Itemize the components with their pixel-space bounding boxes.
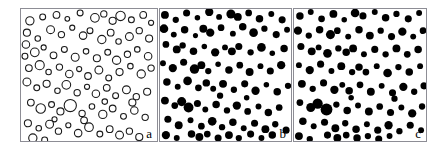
data-point <box>53 12 60 19</box>
data-point <box>231 87 237 93</box>
data-point <box>321 104 333 116</box>
data-point <box>323 49 332 58</box>
data-point <box>359 12 366 19</box>
data-point <box>56 64 62 70</box>
scatter-panel-figure: a b c <box>0 0 445 152</box>
data-point <box>210 86 216 92</box>
panel-b: b <box>159 8 292 142</box>
data-point <box>205 68 211 74</box>
data-point <box>280 45 287 52</box>
data-point <box>345 34 351 40</box>
data-point <box>330 86 338 94</box>
data-point <box>307 136 313 141</box>
data-point <box>247 49 253 55</box>
data-point <box>284 27 290 33</box>
data-point <box>55 128 61 134</box>
data-point <box>269 131 276 138</box>
data-point <box>233 101 241 109</box>
panel-a-scatter <box>21 9 157 141</box>
data-point <box>206 29 214 37</box>
data-point <box>99 110 107 118</box>
data-point <box>102 99 108 105</box>
data-point <box>420 27 426 34</box>
data-point <box>355 26 362 33</box>
data-point <box>208 117 217 126</box>
data-point <box>364 121 370 127</box>
data-point <box>30 48 39 57</box>
data-point <box>217 93 223 99</box>
data-point <box>245 10 252 17</box>
data-point <box>342 49 349 56</box>
data-point <box>77 10 83 16</box>
data-point <box>372 9 378 15</box>
data-point <box>26 65 33 72</box>
panel-b-label: b <box>280 126 287 141</box>
data-point <box>180 59 187 66</box>
panel-c-label: c <box>415 126 421 141</box>
data-point <box>74 129 81 136</box>
data-point <box>333 134 341 141</box>
data-point <box>190 48 197 55</box>
data-point <box>205 9 213 16</box>
data-point <box>66 70 73 77</box>
data-point <box>92 90 99 97</box>
data-point <box>146 35 153 42</box>
data-point <box>195 133 203 141</box>
data-point <box>396 128 402 134</box>
data-point <box>268 11 274 17</box>
data-point <box>225 131 233 139</box>
data-point <box>23 29 30 36</box>
data-point <box>64 99 76 111</box>
data-point <box>162 131 170 139</box>
data-point <box>366 32 374 40</box>
panel-c-plot-area <box>294 9 426 141</box>
data-point <box>197 61 205 69</box>
data-point <box>71 53 79 61</box>
data-point <box>349 44 357 52</box>
data-point <box>173 17 179 23</box>
data-point <box>181 26 188 33</box>
data-point <box>47 26 55 34</box>
data-point <box>116 131 124 139</box>
data-point <box>133 94 139 100</box>
data-point <box>83 49 89 55</box>
data-point <box>35 36 41 42</box>
data-point <box>236 135 242 141</box>
data-point <box>126 128 132 134</box>
data-point <box>161 97 169 105</box>
data-point <box>361 51 367 57</box>
data-point <box>273 31 280 38</box>
data-point <box>391 95 397 101</box>
data-point <box>128 17 134 23</box>
data-point <box>308 9 314 15</box>
data-point <box>144 88 151 95</box>
data-point <box>204 131 211 138</box>
data-point <box>328 68 334 74</box>
data-point <box>246 68 254 76</box>
data-point <box>261 26 267 32</box>
data-point <box>135 47 141 53</box>
data-point <box>202 107 208 113</box>
data-point <box>160 60 166 66</box>
data-point <box>321 119 328 126</box>
data-point <box>183 9 190 16</box>
data-point <box>188 117 194 123</box>
data-point <box>343 107 350 114</box>
data-point <box>273 88 280 95</box>
data-point <box>251 87 259 95</box>
data-point <box>363 69 370 76</box>
data-point <box>74 90 80 96</box>
data-point <box>388 33 395 40</box>
data-point <box>136 134 143 141</box>
data-point <box>241 80 248 87</box>
data-point <box>36 125 42 131</box>
data-point <box>365 108 373 116</box>
data-point <box>180 42 186 48</box>
data-point <box>355 103 361 109</box>
data-point <box>355 63 362 70</box>
data-point <box>387 109 394 116</box>
data-point <box>65 16 70 21</box>
data-point <box>399 83 407 91</box>
data-point <box>109 105 116 112</box>
data-point <box>70 25 75 30</box>
